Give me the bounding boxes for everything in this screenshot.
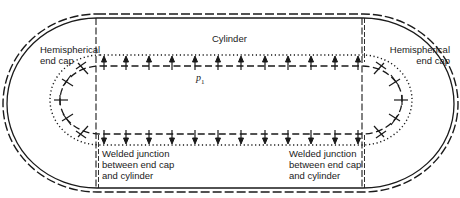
inner-surface-dashed [60,66,402,134]
arrow-up-icon [193,56,198,70]
arrow-up-icon [333,56,338,70]
left-weld-label-line1: Welded junction [102,148,174,159]
right-end-cap-label: Hemispherical end cap [366,44,450,66]
arrow-down-icon [124,130,129,144]
arrow-up-icon [263,56,268,70]
pressure-vessel-diagram: Cylinder Hemispherical end cap Hemispher… [0,0,460,198]
vessel-drawing [0,0,460,198]
arrow-up-icon [147,56,152,70]
arrow-down-icon [170,130,175,144]
right-weld-label-line3: and cylinder [289,170,361,181]
arrow-down-icon [193,130,198,144]
right-weld-junction-line [362,18,365,188]
arrow-down-icon [216,130,221,144]
left-end-cap-label-line1: Hemispherical [40,44,100,55]
right-weld-label-line2: between end cap [289,159,361,170]
right-end-cap-label-line1: Hemispherical [366,44,450,55]
arrow-radial-icon [374,126,386,138]
left-weld-label-line2: between end cap [102,159,174,170]
top-pressure-arrows [102,56,361,70]
arrow-up-icon [356,56,361,70]
left-weld-junction-label: Welded junction between end cap and cyli… [102,148,174,181]
arrow-down-icon [356,130,361,144]
arrow-radial-icon [394,95,408,105]
arrow-up-icon [239,56,244,70]
arrow-up-icon [170,56,175,70]
pressure-subscript: 1 [201,78,205,86]
arrow-up-icon [124,56,129,70]
right-weld-junction-label: Welded junction between end cap and cyli… [289,148,361,181]
arrow-up-icon [286,56,291,70]
arrow-down-icon [239,130,244,144]
pressure-p1-label: p1 [196,72,205,88]
arrow-down-icon [147,130,152,144]
right-weld-label-line1: Welded junction [289,148,361,159]
bottom-pressure-arrows [102,130,361,144]
left-end-cap-label-line2: end cap [40,55,100,66]
arrow-radial-icon [389,75,400,86]
arrow-down-icon [309,130,314,144]
left-weld-label-line3: and cylinder [102,170,174,181]
arrow-radial-icon [54,95,68,105]
arrow-radial-icon [62,114,73,125]
arrow-up-icon [102,56,107,70]
arrow-down-icon [102,130,107,144]
arrow-up-icon [216,56,221,70]
cylinder-label: Cylinder [212,33,247,44]
arrow-down-icon [263,130,268,144]
arrow-down-icon [286,130,291,144]
left-end-cap-label: Hemispherical end cap [40,44,100,66]
arrow-up-icon [309,56,314,70]
right-end-cap-label-line2: end cap [366,55,450,66]
arrow-down-icon [333,130,338,144]
